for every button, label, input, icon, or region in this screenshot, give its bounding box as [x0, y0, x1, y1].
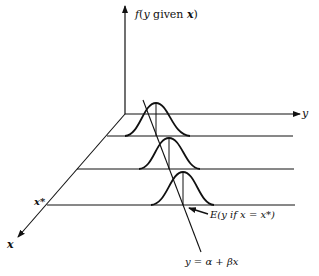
distribution-curve-1: [125, 103, 190, 136]
x-axis-label: x: [6, 238, 14, 251]
regression-line: [143, 100, 201, 252]
x-star-label: x*: [33, 196, 46, 207]
y-axis-label: y: [301, 107, 309, 120]
vertical-axis-label: f(y given x): [134, 8, 198, 21]
expectation-pointer: [189, 208, 208, 214]
expectation-label: E(y if x = x*): [209, 209, 275, 220]
regression-diagram: f(y given x) y x x* E(y if x = x*) y = α…: [0, 0, 319, 276]
regression-line-label: y = α + βx: [184, 256, 239, 267]
x-axis: [18, 114, 125, 237]
